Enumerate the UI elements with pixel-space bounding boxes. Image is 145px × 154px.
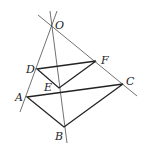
label-B: B: [54, 130, 63, 143]
geometry-figure: O D F E A C B: [0, 0, 145, 154]
label-D: D: [25, 63, 35, 76]
label-A: A: [14, 91, 23, 104]
triangle-ABC: [27, 84, 123, 127]
label-F: F: [100, 54, 109, 67]
label-C: C: [126, 75, 135, 88]
label-O: O: [55, 19, 64, 32]
label-E: E: [43, 81, 52, 94]
